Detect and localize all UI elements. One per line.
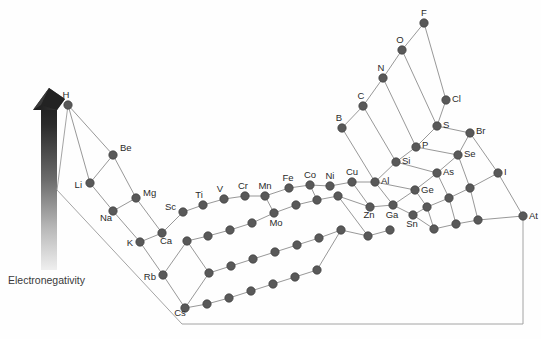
element-node-at[interactable] <box>519 212 527 220</box>
element-label-b: B <box>336 112 342 123</box>
element-node-rb[interactable] <box>159 271 167 279</box>
element-node-f[interactable] <box>420 19 428 27</box>
element-node-mn[interactable] <box>261 192 269 200</box>
element-node-cu[interactable] <box>348 178 356 186</box>
element-node-cr[interactable] <box>241 192 249 200</box>
electronegativity-diagram: HBeLiMgNaCaKRbCsScTiVCrMnFeCoNiCuZnMoBCN… <box>0 0 541 339</box>
element-node-sc[interactable] <box>179 208 187 216</box>
element-node-v[interactable] <box>220 195 228 203</box>
base-plane-segment <box>57 190 182 324</box>
element-node[interactable] <box>337 226 345 234</box>
element-label-cl: Cl <box>452 93 461 104</box>
bond-edge <box>163 241 187 275</box>
element-node-se[interactable] <box>454 151 462 159</box>
element-node-n[interactable] <box>379 74 387 82</box>
element-node[interactable] <box>271 248 279 256</box>
element-label-cu: Cu <box>346 166 358 177</box>
element-node[interactable] <box>466 184 474 192</box>
bond-edge <box>383 50 402 78</box>
element-label-as: As <box>443 166 454 177</box>
element-node-o[interactable] <box>398 46 406 54</box>
element-node[interactable] <box>334 192 342 200</box>
element-label-co: Co <box>304 169 316 180</box>
element-node[interactable] <box>183 237 191 245</box>
element-label-cs: Cs <box>174 307 186 318</box>
element-node[interactable] <box>248 219 256 227</box>
element-node[interactable] <box>292 201 300 209</box>
base-plane-segment <box>57 105 68 190</box>
bond-edge <box>338 196 370 207</box>
element-node-br[interactable] <box>466 129 474 137</box>
element-node[interactable] <box>313 266 321 274</box>
element-node-h[interactable] <box>64 101 72 109</box>
element-label-mg: Mg <box>143 187 156 198</box>
element-node[interactable] <box>386 226 394 234</box>
element-node[interactable] <box>247 287 255 295</box>
element-node[interactable] <box>293 241 301 249</box>
element-node-mg[interactable] <box>132 194 140 202</box>
bond-edge <box>470 173 498 188</box>
element-label-ca: Ca <box>160 235 173 246</box>
bond-edge <box>342 106 363 128</box>
bond-edge <box>498 173 523 216</box>
element-node[interactable] <box>430 225 438 233</box>
bond-edge <box>424 23 446 100</box>
element-node-si[interactable] <box>392 158 400 166</box>
element-node-fe[interactable] <box>285 184 293 192</box>
element-label-sn: Sn <box>406 218 418 229</box>
element-node[interactable] <box>474 216 482 224</box>
element-node[interactable] <box>225 294 233 302</box>
element-nodes <box>64 19 527 312</box>
element-label-v: V <box>217 183 224 194</box>
element-node[interactable] <box>452 220 460 228</box>
bond-edge <box>187 241 209 273</box>
element-node-li[interactable] <box>86 179 94 187</box>
bond-edge <box>437 126 470 133</box>
bond-edge <box>383 78 416 147</box>
element-node-ti[interactable] <box>199 201 207 209</box>
element-label-ni: Ni <box>326 170 335 181</box>
element-node-ge[interactable] <box>411 186 419 194</box>
element-node-s[interactable] <box>433 122 441 130</box>
element-node[interactable] <box>227 262 235 270</box>
element-label-se: Se <box>464 148 476 159</box>
element-node-al[interactable] <box>371 178 379 186</box>
element-node[interactable] <box>203 300 211 308</box>
bond-edge <box>113 155 136 198</box>
element-node-i[interactable] <box>494 169 502 177</box>
element-node[interactable] <box>205 269 213 277</box>
element-label-be: Be <box>120 142 132 153</box>
bond-edge <box>90 183 113 211</box>
element-node-b[interactable] <box>338 124 346 132</box>
bond-edge <box>136 198 162 233</box>
element-node[interactable] <box>315 234 323 242</box>
element-node[interactable] <box>313 196 321 204</box>
element-node-k[interactable] <box>136 238 144 246</box>
element-node[interactable] <box>445 194 453 202</box>
element-label-c: C <box>358 90 365 101</box>
element-node[interactable] <box>291 273 299 281</box>
element-node-c[interactable] <box>359 102 367 110</box>
element-label-na: Na <box>100 212 113 223</box>
element-node-ni[interactable] <box>326 182 334 190</box>
element-node-cl[interactable] <box>442 96 450 104</box>
element-label-ti: Ti <box>195 189 203 200</box>
element-node-mo[interactable] <box>270 209 278 217</box>
element-node[interactable] <box>226 226 234 234</box>
element-node-p[interactable] <box>412 143 420 151</box>
bond-edge <box>478 216 523 220</box>
element-node-as[interactable] <box>433 169 441 177</box>
element-node[interactable] <box>269 280 277 288</box>
diagram-canvas: HBeLiMgNaCaKRbCsScTiVCrMnFeCoNiCuZnMoBCN… <box>0 0 541 339</box>
element-node-be[interactable] <box>109 151 117 159</box>
element-node-co[interactable] <box>306 181 314 189</box>
element-node[interactable] <box>249 255 257 263</box>
element-node[interactable] <box>423 203 431 211</box>
element-node-ga[interactable] <box>389 201 397 209</box>
bond-edge <box>363 106 396 162</box>
bond-edge <box>402 23 424 50</box>
element-label-ga: Ga <box>386 209 399 220</box>
element-node[interactable] <box>364 232 372 240</box>
element-node[interactable] <box>204 232 212 240</box>
element-label-al: Al <box>381 175 389 186</box>
